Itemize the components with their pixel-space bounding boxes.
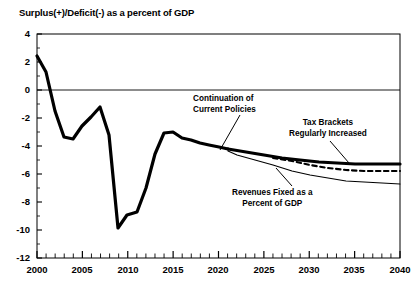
x-tick-label-2000: 2000 — [17, 264, 57, 275]
annotation-tax-brackets-line2: Regularly Increased — [289, 129, 367, 140]
plot-area — [0, 0, 415, 284]
chart-figure: Surplus(+)/Deficit(-) as a percent of GD… — [0, 0, 415, 284]
x-tick-label-2025: 2025 — [244, 264, 284, 275]
x-tick-label-2035: 2035 — [334, 264, 374, 275]
y-tick-label-neg12: -12 — [2, 252, 30, 263]
annotation-continuation-of-current-policies: Continuation of Current Policies — [193, 94, 256, 115]
y-tick-label-neg4: -4 — [2, 140, 30, 151]
y-tick-label-0: 0 — [2, 84, 30, 95]
y-tick-label-4: 4 — [2, 28, 30, 39]
annotation-tax-brackets-line1: Tax Brackets — [289, 118, 367, 129]
x-tick-label-2020: 2020 — [198, 264, 238, 275]
y-tick-label-neg10: -10 — [2, 224, 30, 235]
annotation-continuation-line2: Current Policies — [193, 105, 256, 116]
x-tick-label-2030: 2030 — [289, 264, 329, 275]
x-tick-label-2015: 2015 — [153, 264, 193, 275]
y-tick-label-neg8: -8 — [2, 196, 30, 207]
x-tick-label-2040: 2040 — [380, 264, 415, 275]
x-tick-label-2010: 2010 — [108, 264, 148, 275]
y-tick-label-neg2: -2 — [2, 112, 30, 123]
annotation-revenues-fixed-as-a-percent-of-gdp: Revenues Fixed as a Percent of GDP — [232, 188, 313, 209]
x-tick-label-2005: 2005 — [62, 264, 102, 275]
y-tick-label-neg6: -6 — [2, 168, 30, 179]
annotation-tax-brackets-regularly-increased: Tax Brackets Regularly Increased — [289, 118, 367, 139]
annotation-revenues-line1: Revenues Fixed as a — [232, 188, 313, 199]
y-tick-label-2: 2 — [2, 56, 30, 67]
annotation-revenues-line2: Percent of GDP — [232, 199, 313, 210]
annotation-continuation-line1: Continuation of — [193, 94, 256, 105]
